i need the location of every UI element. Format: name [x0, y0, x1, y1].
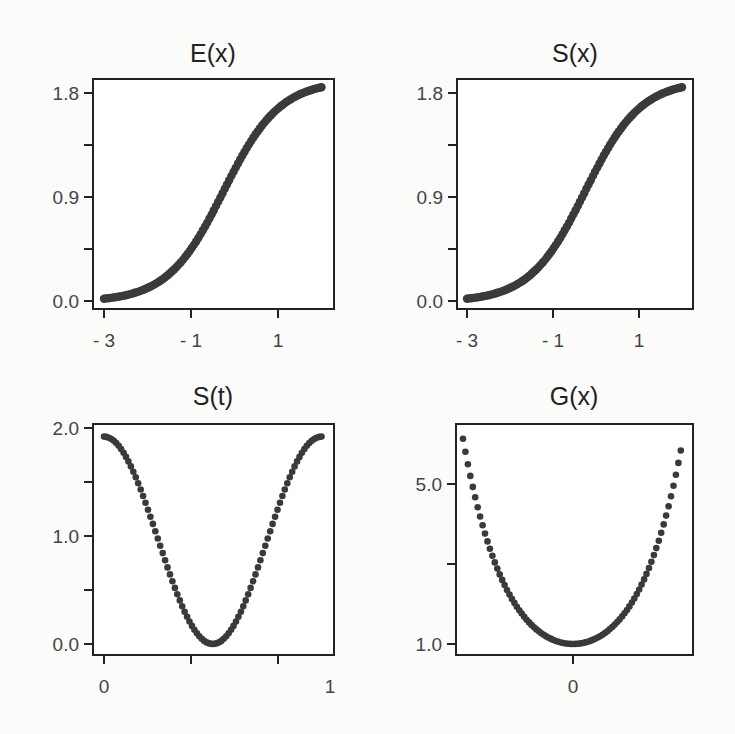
- data-point: [470, 484, 477, 491]
- data-point: [318, 433, 325, 440]
- y-tick-label: 0.0: [417, 291, 443, 312]
- data-point: [152, 528, 159, 535]
- panel-g-x: G(x) 1.05.0 0: [416, 382, 693, 697]
- data-point: [245, 591, 252, 598]
- panel-e-x: E(x) 0.00.91.8 - 3- 11: [53, 39, 334, 351]
- panel-title: S(t): [193, 382, 233, 410]
- panel-s-x: S(x) 0.00.91.8 - 3- 11: [417, 39, 693, 351]
- data-point: [252, 571, 259, 578]
- data-point: [494, 565, 501, 572]
- data-point: [167, 571, 174, 578]
- y-tick-label: 0.0: [53, 291, 79, 312]
- data-point: [646, 565, 653, 572]
- plot-frame: [457, 79, 693, 309]
- data-point: [663, 512, 670, 519]
- data-point: [277, 500, 284, 507]
- data-point: [269, 521, 276, 528]
- x-tick-label: - 3: [93, 330, 115, 351]
- data-point: [651, 552, 658, 559]
- data-point: [240, 603, 247, 610]
- data-point: [675, 460, 682, 467]
- x-axis: 0: [99, 655, 278, 697]
- y-tick-label: 5.0: [416, 474, 442, 495]
- panel-title: E(x): [190, 39, 236, 67]
- data-point: [474, 504, 481, 511]
- x-axis: 0: [568, 655, 579, 697]
- data-point: [482, 530, 489, 537]
- data-point: [656, 537, 663, 544]
- data-point: [150, 521, 157, 528]
- y-tick-label: 0.9: [53, 187, 79, 208]
- x-tick-label: - 3: [456, 330, 478, 351]
- data-point: [484, 538, 491, 545]
- x-axis: - 3- 11: [456, 309, 644, 351]
- y-axis: 1.05.0: [416, 474, 456, 655]
- data-point: [137, 486, 144, 493]
- data-point: [260, 550, 267, 557]
- data-point: [660, 521, 667, 528]
- data-point: [274, 506, 281, 513]
- data-point: [247, 585, 254, 592]
- data-point: [157, 543, 164, 550]
- y-tick-label: 1.8: [417, 83, 443, 104]
- panel-title: G(x): [550, 382, 599, 410]
- chart-figure: E(x) 0.00.91.8 - 3- 11 S(x) 0.00.91.8 - …: [0, 0, 735, 734]
- data-point: [145, 506, 152, 513]
- data-point: [255, 564, 262, 571]
- x-tick-label: 0: [99, 676, 110, 697]
- data-point: [147, 513, 154, 520]
- y-tick-label: 1.0: [53, 526, 79, 547]
- data-point: [250, 578, 257, 585]
- plot-frame: [93, 79, 334, 309]
- panel-s-t: S(t) 0.01.02.0 0 1: [53, 382, 336, 697]
- data-point: [279, 493, 286, 500]
- data-point: [678, 83, 686, 91]
- data-point: [140, 493, 147, 500]
- data-point: [467, 473, 474, 480]
- y-tick-label: 0.0: [53, 634, 79, 655]
- x-tick-label-end: 1: [325, 676, 336, 697]
- y-tick-label: 1.8: [53, 83, 79, 104]
- data-point: [267, 528, 274, 535]
- data-point: [492, 559, 499, 566]
- data-point: [653, 545, 660, 552]
- data-point: [678, 447, 685, 454]
- panel-title: S(x): [552, 39, 598, 67]
- y-tick-label: 1.0: [416, 634, 442, 655]
- data-point: [174, 591, 181, 598]
- data-point: [172, 585, 179, 592]
- x-tick-label: 1: [634, 330, 645, 351]
- y-tick-label: 0.9: [417, 187, 443, 208]
- data-point: [272, 513, 279, 520]
- data-point: [169, 578, 176, 585]
- data-point: [658, 530, 665, 537]
- data-point: [284, 480, 291, 487]
- y-axis: 0.00.91.8: [417, 83, 457, 312]
- data-point: [164, 564, 171, 571]
- y-axis: 0.00.91.8: [53, 83, 93, 312]
- x-tick-label: - 1: [180, 330, 202, 351]
- data-point: [133, 474, 140, 481]
- data-point: [487, 546, 494, 553]
- data-point: [264, 535, 271, 542]
- data-point: [142, 500, 149, 507]
- data-point: [155, 535, 162, 542]
- data-point: [479, 522, 486, 529]
- data-point: [159, 550, 166, 557]
- data-point: [648, 558, 655, 565]
- x-tick-label: 0: [568, 676, 579, 697]
- y-axis: 0.01.02.0: [53, 418, 93, 655]
- data-point: [465, 461, 472, 468]
- data-point: [460, 435, 467, 442]
- data-point: [257, 557, 264, 564]
- y-tick-label: 2.0: [53, 418, 79, 439]
- data-point: [462, 449, 469, 456]
- data-point: [282, 486, 289, 493]
- data-point: [472, 494, 479, 501]
- data-point: [135, 480, 142, 487]
- data-point: [673, 471, 680, 478]
- data-point: [489, 553, 496, 560]
- data-point: [177, 597, 184, 604]
- x-tick-label: 1: [273, 330, 284, 351]
- data-point: [242, 597, 249, 604]
